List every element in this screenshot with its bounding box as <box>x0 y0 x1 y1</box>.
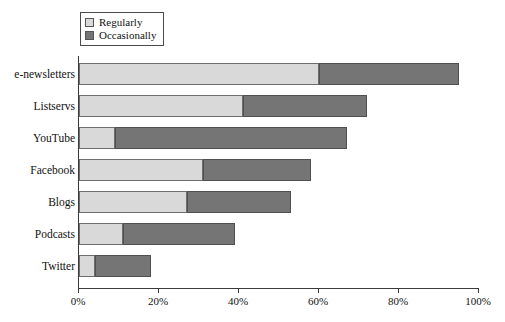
x-axis-tick <box>158 288 159 293</box>
x-axis-tick-label: 40% <box>228 295 248 308</box>
category-label: Listservs <box>5 95 75 117</box>
x-axis-tick-label: 100% <box>465 295 491 308</box>
plot-area: e-newslettersListservsYouTubeFacebookBlo… <box>78 56 478 288</box>
x-axis-tick-label: 20% <box>148 295 168 308</box>
x-axis-tick <box>398 288 399 293</box>
x-axis-tick <box>78 288 79 293</box>
category-label: e-newsletters <box>5 63 75 85</box>
category-label: YouTube <box>5 127 75 149</box>
category-label: Twitter <box>5 255 75 277</box>
legend-label-regularly: Regularly <box>99 16 142 29</box>
x-axis-tick <box>478 288 479 293</box>
legend-swatch-regularly <box>85 18 94 27</box>
bar-segment-regularly <box>79 63 319 85</box>
bar-segment-regularly <box>79 255 95 277</box>
bar-segment-regularly <box>79 127 115 149</box>
bar-segment-regularly <box>79 191 187 213</box>
category-label: Blogs <box>5 191 75 213</box>
x-axis-tick <box>238 288 239 293</box>
chart-legend: Regularly Occasionally <box>80 12 164 46</box>
bar-segment-occasionally <box>123 223 235 245</box>
x-axis-tick-label: 80% <box>388 295 408 308</box>
bar-segment-occasionally <box>95 255 151 277</box>
category-label: Facebook <box>5 159 75 181</box>
category-label: Podcasts <box>5 223 75 245</box>
bar-segment-occasionally <box>319 63 459 85</box>
legend-swatch-occasionally <box>85 31 94 40</box>
x-axis-line <box>78 288 479 289</box>
bar-segment-regularly <box>79 95 243 117</box>
bar-segment-regularly <box>79 223 123 245</box>
bar-segment-regularly <box>79 159 203 181</box>
x-axis-tick-label: 60% <box>308 295 328 308</box>
legend-label-occasionally: Occasionally <box>99 29 156 42</box>
x-axis-tick-label: 0% <box>71 295 86 308</box>
legend-item-regularly: Regularly <box>85 16 156 29</box>
stacked-bar-chart: Regularly Occasionally e-newslettersList… <box>0 0 505 322</box>
x-axis-tick <box>318 288 319 293</box>
legend-item-occasionally: Occasionally <box>85 29 156 42</box>
bar-segment-occasionally <box>203 159 311 181</box>
bar-segment-occasionally <box>115 127 347 149</box>
bar-segment-occasionally <box>187 191 291 213</box>
bar-segment-occasionally <box>243 95 367 117</box>
